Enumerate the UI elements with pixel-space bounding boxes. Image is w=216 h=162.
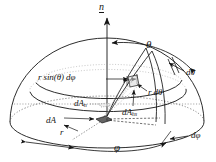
surface-element <box>64 116 112 123</box>
surface-element-label: dA <box>46 116 56 125</box>
patch-height-label: r dθ <box>148 88 162 97</box>
projected-area-label: dAn <box>74 99 87 108</box>
azimuth-angle-label: φ <box>114 142 120 153</box>
radius-label: r <box>60 128 63 137</box>
hemisphere-patch <box>128 75 139 87</box>
projected-area-label-base: dA <box>74 98 84 108</box>
normal-axis-label: n <box>99 2 104 13</box>
azimuth-chords <box>106 118 160 125</box>
hemisphere-patch-label: dAhs <box>122 108 137 117</box>
hemisphere-patch-label-base: dA <box>122 107 132 117</box>
azimuth-increment-label: dφ <box>191 131 200 140</box>
radius-line <box>64 122 100 140</box>
hemisphere-solid-angle-figure: n θ dθ r sin(θ) dφ r dθ dAn dAhs dA r φ … <box>0 0 216 162</box>
figure-canvas <box>0 0 216 162</box>
hemisphere-patch-leader <box>133 90 134 106</box>
patch-width-label: r sin(θ) dφ <box>38 73 75 82</box>
polar-increment-label: dθ <box>186 68 195 77</box>
polar-increment-arc <box>168 57 184 75</box>
hemisphere-patch-label-sub: hs <box>132 111 137 117</box>
azimuth-angle-arc <box>26 142 166 151</box>
azimuth-increment-arc <box>162 131 188 143</box>
polar-angle-label: θ <box>146 39 151 50</box>
projected-area-label-sub: n <box>84 102 87 108</box>
